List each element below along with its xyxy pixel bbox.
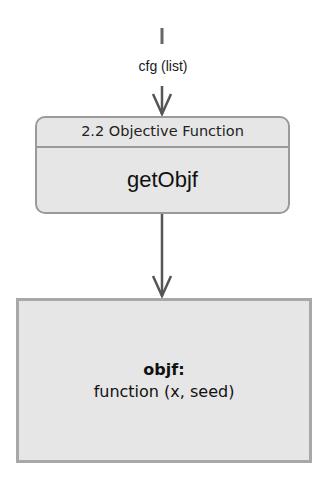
function-node-header: 2.2 Objective Function bbox=[37, 118, 288, 148]
input-label: cfg (list) bbox=[0, 58, 326, 74]
function-node: 2.2 Objective Function getObjf bbox=[35, 116, 290, 214]
output-node: objf: function (x, seed) bbox=[16, 298, 312, 463]
output-node-title: objf: bbox=[143, 359, 184, 381]
function-node-name: getObjf bbox=[37, 148, 288, 212]
output-node-value: function (x, seed) bbox=[94, 381, 235, 403]
